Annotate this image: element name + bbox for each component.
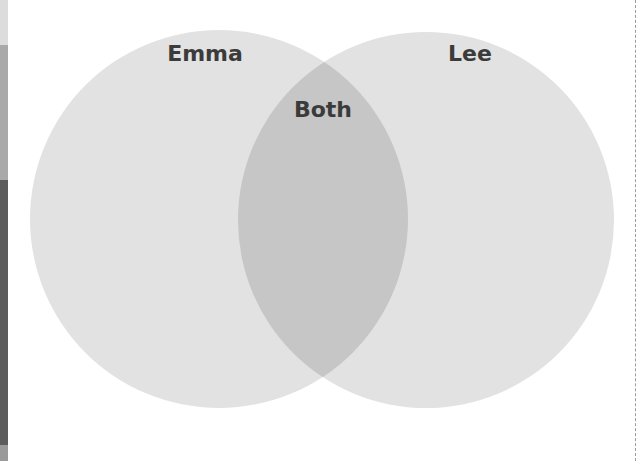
set-label-emma: Emma bbox=[167, 41, 243, 66]
intersection-label-both: Both bbox=[294, 97, 352, 122]
venn-diagram: Emma Lee Both bbox=[0, 0, 643, 461]
set-label-lee: Lee bbox=[448, 41, 492, 66]
